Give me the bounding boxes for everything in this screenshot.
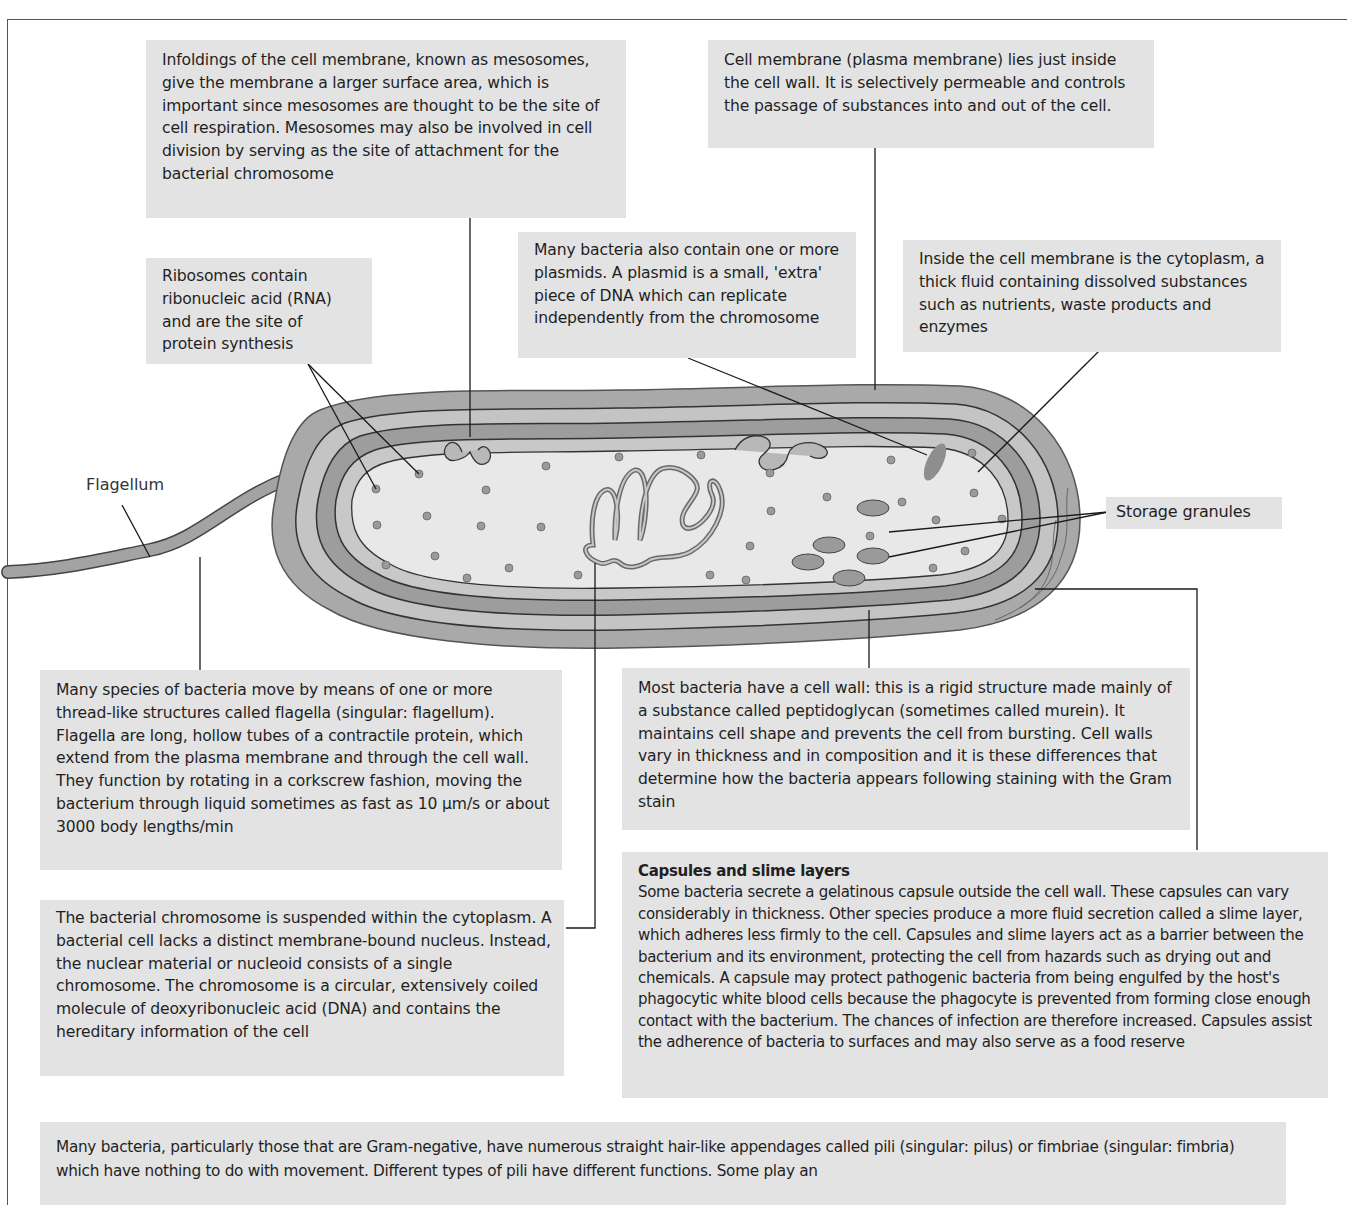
mesosomes-text: Infoldings of the cell membrane, known a… [162,51,599,183]
plasmids-text: Many bacteria also contain one or more p… [534,241,839,327]
cell-wall-text: Most bacteria have a cell wall: this is … [638,679,1172,811]
annotation-ribosomes: Ribosomes contain ribonucleic acid (RNA)… [146,258,372,364]
annotation-cytoplasm: Inside the cell membrane is the cytoplas… [903,240,1281,352]
pili-text: Many bacteria, particularly those that a… [56,1138,1235,1180]
annotation-cell-wall: Most bacteria have a cell wall: this is … [622,668,1190,830]
annotation-capsule: Capsules and slime layers Some bacteria … [622,852,1328,1098]
annotation-flagella: Many species of bacteria move by means o… [40,670,562,870]
capsule-text: Some bacteria secrete a gelatinous capsu… [638,883,1312,1051]
annotation-plasmids: Many bacteria also contain one or more p… [518,232,856,358]
cell-membrane-text: Cell membrane (plasma membrane) lies jus… [724,51,1125,115]
annotation-cell-membrane: Cell membrane (plasma membrane) lies jus… [708,40,1154,148]
ribosomes-text: Ribosomes contain ribonucleic acid (RNA)… [162,267,332,353]
cytoplasm-text: Inside the cell membrane is the cytoplas… [919,250,1264,336]
annotation-chromosome: The bacterial chromosome is suspended wi… [40,900,564,1076]
chromosome-text: The bacterial chromosome is suspended wi… [56,909,552,1041]
capsule-title: Capsules and slime layers [638,861,1316,882]
storage-granules-label: Storage granules [1106,497,1282,529]
flagellum-label: Flagellum [86,475,164,494]
annotation-mesosomes: Infoldings of the cell membrane, known a… [146,40,626,218]
annotation-pili: Many bacteria, particularly those that a… [40,1122,1286,1205]
flagella-text: Many species of bacteria move by means o… [56,681,550,836]
